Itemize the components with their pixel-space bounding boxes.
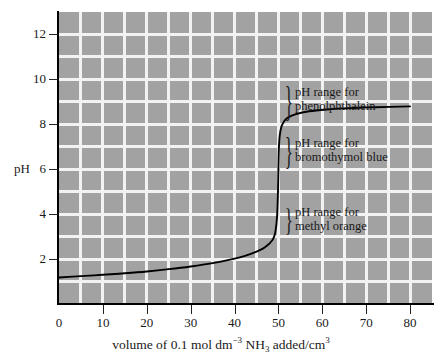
annotation-line-2: methyl orange <box>295 219 367 233</box>
x-axis-tick-label: 20 <box>132 316 162 329</box>
brace-methyl-orange: } <box>283 205 294 234</box>
x-axis-tick-label: 60 <box>307 316 337 329</box>
brace-glyph: } <box>284 132 292 170</box>
x-axis-tick <box>278 305 279 314</box>
annotation-bromothymol-blue: pH range forbromothymol blue <box>295 136 388 164</box>
x-axis-tick <box>322 305 323 314</box>
y-axis-tick-label: 4 <box>16 207 46 220</box>
annotation-line-2: bromothymol blue <box>295 150 388 164</box>
x-axis-tick <box>103 305 104 314</box>
x-axis-tick-label: 50 <box>263 316 293 329</box>
gridline-horizontal <box>59 123 432 126</box>
brace-phenolphthalein: } <box>283 79 294 119</box>
annotation-methyl-orange: pH range formethyl orange <box>295 205 367 233</box>
x-axis-title-mid: NH <box>242 337 265 352</box>
x-axis-line <box>57 303 434 305</box>
x-axis-title-sup1: −3 <box>233 335 243 345</box>
gridline-horizontal <box>59 258 432 261</box>
gridline-horizontal <box>59 55 432 58</box>
brace-bromothymol-blue: } <box>283 133 294 169</box>
x-axis-tick <box>366 305 367 314</box>
x-axis-tick-label: 10 <box>88 316 118 329</box>
brace-glyph: } <box>284 204 292 235</box>
x-axis-tick-label: 40 <box>220 316 250 329</box>
titration-curve-figure: 2468101201020304050607080 pH volume of 0… <box>0 0 442 357</box>
x-axis-tick-label: 80 <box>395 316 425 329</box>
x-axis-title-pre: volume of 0.1 mol dm <box>112 337 232 352</box>
x-axis-tick <box>235 305 236 314</box>
gridline-horizontal <box>59 280 432 283</box>
x-axis-title: volume of 0.1 mol dm−3 NH3 added/cm3 <box>0 333 442 357</box>
gridline-horizontal <box>59 78 432 81</box>
x-axis-title-post: added/cm <box>269 337 325 352</box>
annotation-phenolphthalein: pH range forphenolphthalein <box>295 85 376 113</box>
y-axis-line <box>57 11 59 305</box>
annotation-line-1: pH range for <box>295 136 388 150</box>
y-axis-title: pH <box>14 162 38 175</box>
x-axis-tick-label: 30 <box>176 316 206 329</box>
gridline-horizontal <box>59 33 432 36</box>
x-axis-tick-label: 70 <box>351 316 381 329</box>
y-axis-tick <box>49 214 58 215</box>
y-axis-tick <box>49 124 58 125</box>
annotation-line-2: phenolphthalein <box>295 99 376 113</box>
gridline-horizontal <box>59 100 432 103</box>
x-axis-tick <box>147 305 148 314</box>
x-axis-title-sup2: 3 <box>325 335 330 345</box>
gridline-horizontal <box>59 190 432 193</box>
y-axis-tick <box>49 34 58 35</box>
y-axis-tick-label: 12 <box>16 27 46 40</box>
x-axis-tick-label: 0 <box>44 316 74 329</box>
y-axis-tick-label: 10 <box>16 72 46 85</box>
x-axis-tick <box>410 305 411 314</box>
gridline-horizontal <box>59 168 432 171</box>
brace-glyph: } <box>284 78 292 121</box>
y-axis-tick-label: 8 <box>16 117 46 130</box>
annotation-line-1: pH range for <box>295 85 376 99</box>
y-axis-tick <box>49 169 58 170</box>
annotation-line-1: pH range for <box>295 205 367 219</box>
gridline-horizontal <box>59 235 432 238</box>
gridline-horizontal <box>59 213 432 216</box>
x-axis-tick <box>191 305 192 314</box>
y-axis-tick <box>49 79 58 80</box>
y-axis-tick <box>49 259 58 260</box>
y-axis-tick-label: 2 <box>16 252 46 265</box>
